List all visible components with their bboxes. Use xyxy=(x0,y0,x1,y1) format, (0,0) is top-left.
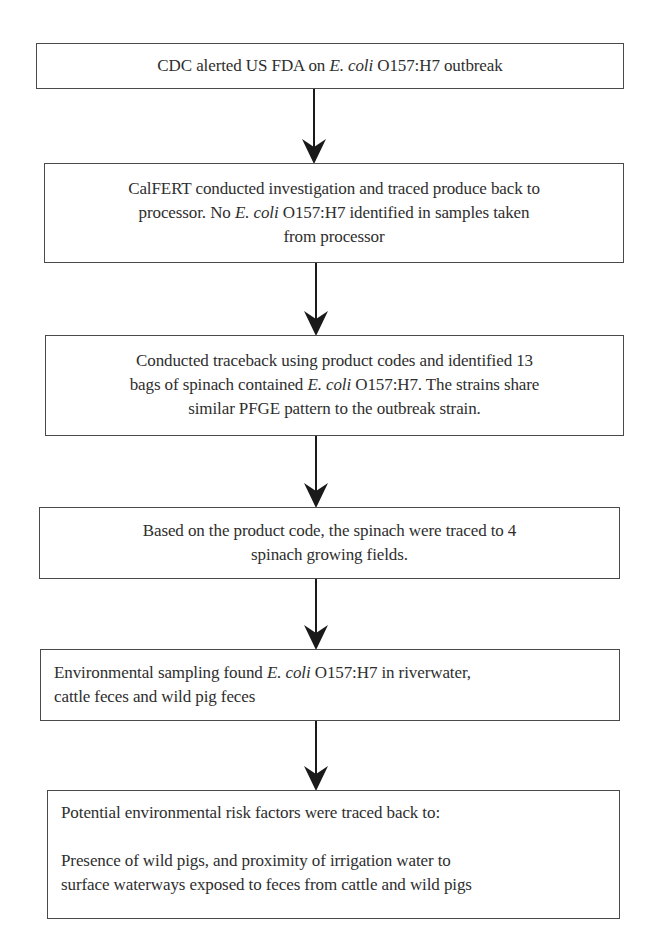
text-run: processor. No xyxy=(139,203,235,222)
arrow-down-icon xyxy=(301,436,331,508)
text-run: bags of spinach contained xyxy=(130,375,308,394)
text-run: O157:H7 in riverwater, xyxy=(311,663,471,682)
step-text: CDC alerted US FDA on E. coli O157:H7 ou… xyxy=(37,54,623,78)
text-run: Based on the product code, the spinach w… xyxy=(143,521,517,540)
text-run: O157:H7 identified in samples taken xyxy=(279,203,530,222)
step-line: from processor xyxy=(45,225,623,249)
organism-name: E. coli xyxy=(267,663,311,682)
text-run: similar PFGE pattern to the outbreak str… xyxy=(188,399,481,418)
organism-name: E. coli xyxy=(329,56,373,75)
text-run: O157:H7. The strains share xyxy=(351,375,539,394)
step-environmental-sampling: Environmental sampling found E. coli O15… xyxy=(40,649,620,721)
step-line: surface waterways exposed to feces from … xyxy=(61,873,619,897)
organism-name: E. coli xyxy=(235,203,279,222)
step-line: Presence of wild pigs, and proximity of … xyxy=(61,849,619,873)
step-traceback-product-codes: Conducted traceback using product codes … xyxy=(45,335,624,436)
organism-name: E. coli xyxy=(307,375,351,394)
text-run: O157:H7 outbreak xyxy=(373,56,503,75)
step-traced-to-fields: Based on the product code, the spinach w… xyxy=(39,507,620,579)
step-line: similar PFGE pattern to the outbreak str… xyxy=(46,397,623,421)
step-cdc-alert: CDC alerted US FDA on E. coli O157:H7 ou… xyxy=(36,43,624,89)
step-heading: Potential environmental risk factors wer… xyxy=(61,801,619,825)
text-run: CalFERT conducted investigation and trac… xyxy=(128,179,540,198)
text-run: spinach growing fields. xyxy=(251,545,408,564)
arrow-down-icon xyxy=(301,579,331,650)
step-risk-factors: Potential environmental risk factors wer… xyxy=(47,790,620,919)
text-run: Conducted traceback using product codes … xyxy=(136,351,533,370)
step-line: bags of spinach contained E. coli O157:H… xyxy=(46,373,623,397)
step-line: processor. No E. coli O157:H7 identified… xyxy=(45,201,623,225)
step-line: cattle feces and wild pig feces xyxy=(54,685,619,709)
step-calfert-investigation: CalFERT conducted investigation and trac… xyxy=(44,163,624,263)
text-run: Environmental sampling found xyxy=(54,663,267,682)
arrow-down-icon xyxy=(301,721,331,791)
step-line: CalFERT conducted investigation and trac… xyxy=(45,177,623,201)
step-line: spinach growing fields. xyxy=(40,543,619,567)
text-run: surface waterways exposed to feces from … xyxy=(61,875,472,894)
arrow-down-icon xyxy=(299,89,329,164)
text-run: CDC alerted US FDA on xyxy=(157,56,329,75)
text-run: from processor xyxy=(283,227,384,246)
step-line: Environmental sampling found E. coli O15… xyxy=(54,661,619,685)
arrow-down-icon xyxy=(301,263,331,336)
step-line: Based on the product code, the spinach w… xyxy=(40,519,619,543)
text-run: cattle feces and wild pig feces xyxy=(54,687,255,706)
step-line: Conducted traceback using product codes … xyxy=(46,349,623,373)
text-run: Presence of wild pigs, and proximity of … xyxy=(61,851,451,870)
